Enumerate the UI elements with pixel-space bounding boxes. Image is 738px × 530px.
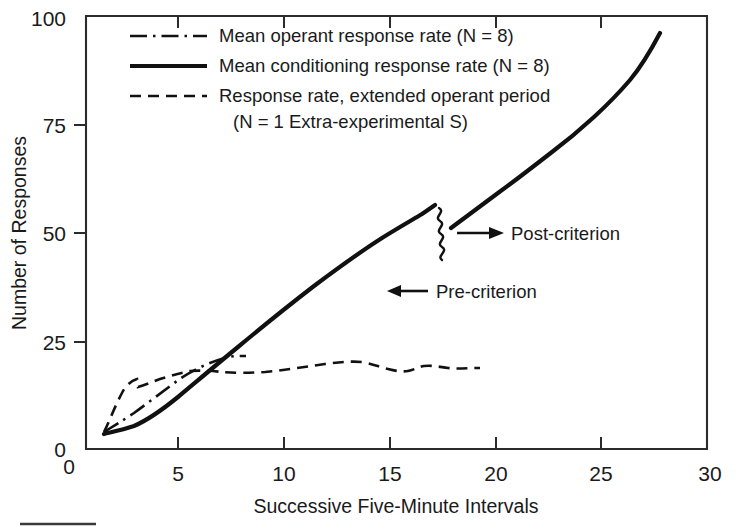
x-axis-title: Successive Five-Minute Intervals — [253, 495, 538, 517]
axis-break-zigzag-icon — [438, 208, 444, 260]
annotation-post-criterion: Post-criterion — [457, 223, 620, 244]
y-tick-label-0: 0 — [54, 438, 66, 461]
y-tick-label-50: 50 — [43, 222, 66, 245]
x-tick-label-15: 15 — [378, 462, 401, 485]
x-tick-label-5: 5 — [172, 462, 184, 485]
legend-label-0: Mean operant response rate (N = 8) — [219, 25, 514, 46]
annotation-pre-criterion-label: Pre-criterion — [436, 281, 537, 302]
series-conditioning-precriterion-curve — [104, 205, 435, 434]
annotation-pre-criterion: Pre-criterion — [387, 281, 537, 302]
legend: Mean operant response rate (N = 8) Mean … — [130, 25, 550, 132]
response-rate-chart: 0 5 10 15 20 25 30 0 25 50 75 100 Succes… — [0, 0, 738, 530]
x-tick-label-30: 30 — [698, 462, 721, 485]
y-tick-label-75: 75 — [43, 114, 66, 137]
y-axis-title: Number of Responses — [8, 136, 30, 330]
y-axis-ticks — [74, 125, 86, 342]
x-tick-labels: 0 5 10 15 20 25 30 — [63, 455, 722, 485]
annotation-post-criterion-label: Post-criterion — [511, 223, 620, 244]
legend-entry-1: Mean conditioning response rate (N = 8) — [130, 55, 550, 76]
y-tick-label-100: 100 — [31, 7, 66, 30]
x-tick-label-25: 25 — [589, 462, 612, 485]
legend-label-2-continuation: (N = 1 Extra-experimental S) — [233, 111, 468, 132]
series-extended-operant-curve — [104, 362, 480, 432]
legend-entry-0: Mean operant response rate (N = 8) — [130, 25, 514, 46]
x-tick-label-10: 10 — [272, 462, 295, 485]
series-mean-operant-curve — [104, 356, 246, 432]
legend-label-2: Response rate, extended operant period — [219, 85, 550, 106]
y-tick-labels: 0 25 50 75 100 — [31, 7, 66, 461]
x-tick-label-20: 20 — [484, 462, 507, 485]
y-tick-label-25: 25 — [43, 331, 66, 354]
legend-entry-2: Response rate, extended operant period (… — [130, 85, 550, 132]
legend-label-1: Mean conditioning response rate (N = 8) — [219, 55, 550, 76]
